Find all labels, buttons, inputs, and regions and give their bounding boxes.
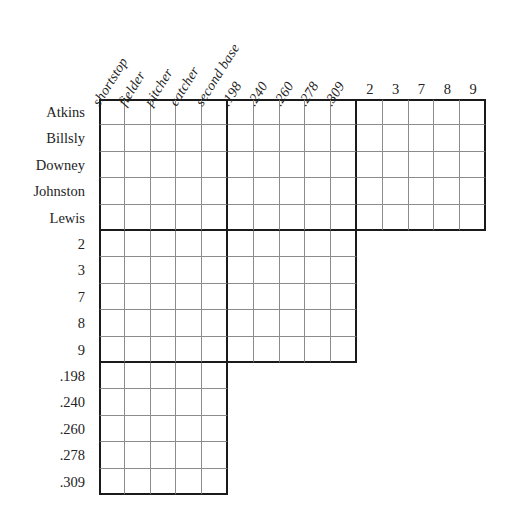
grid-cell[interactable] — [383, 125, 409, 151]
grid-cell[interactable] — [357, 125, 383, 151]
grid-cell[interactable] — [99, 205, 125, 231]
grid-cell[interactable] — [383, 178, 409, 204]
grid-cell[interactable] — [434, 125, 460, 151]
grid-cell[interactable] — [202, 310, 228, 336]
grid-cell[interactable] — [151, 416, 177, 442]
grid-cell[interactable] — [409, 152, 435, 178]
grid-cell[interactable] — [228, 310, 254, 336]
grid-cell[interactable] — [176, 337, 202, 363]
grid-cell[interactable] — [99, 257, 125, 283]
grid-cell[interactable] — [305, 310, 331, 336]
grid-cell[interactable] — [151, 152, 177, 178]
grid-cell[interactable] — [202, 416, 228, 442]
grid-cell[interactable] — [228, 284, 254, 310]
grid-cell[interactable] — [176, 389, 202, 415]
grid-cell[interactable] — [176, 205, 202, 231]
grid-cell[interactable] — [202, 231, 228, 257]
grid-cell[interactable] — [151, 231, 177, 257]
grid-cell[interactable] — [254, 125, 280, 151]
grid-cell[interactable] — [176, 363, 202, 389]
grid-cell[interactable] — [125, 442, 151, 468]
grid-cell[interactable] — [254, 284, 280, 310]
grid-cell[interactable] — [99, 389, 125, 415]
grid-cell[interactable] — [305, 337, 331, 363]
grid-cell[interactable] — [280, 284, 306, 310]
grid-cell[interactable] — [125, 125, 151, 151]
grid-cell[interactable] — [331, 337, 357, 363]
grid-cell[interactable] — [460, 99, 486, 125]
grid-cell[interactable] — [331, 231, 357, 257]
grid-cell[interactable] — [99, 178, 125, 204]
grid-cell[interactable] — [409, 178, 435, 204]
grid-cell[interactable] — [99, 284, 125, 310]
grid-cell[interactable] — [125, 178, 151, 204]
grid-cell[interactable] — [176, 310, 202, 336]
grid-cell[interactable] — [305, 125, 331, 151]
grid-cell[interactable] — [202, 152, 228, 178]
grid-cell[interactable] — [228, 257, 254, 283]
grid-cell[interactable] — [176, 416, 202, 442]
grid-cell[interactable] — [280, 310, 306, 336]
grid-cell[interactable] — [254, 231, 280, 257]
grid-cell[interactable] — [305, 152, 331, 178]
grid-cell[interactable] — [151, 310, 177, 336]
grid-cell[interactable] — [460, 125, 486, 151]
grid-cell[interactable] — [202, 205, 228, 231]
grid-cell[interactable] — [357, 99, 383, 125]
grid-cell[interactable] — [331, 310, 357, 336]
grid-cell[interactable] — [125, 337, 151, 363]
grid-cell[interactable] — [409, 125, 435, 151]
grid-cell[interactable] — [151, 205, 177, 231]
grid-cell[interactable] — [125, 205, 151, 231]
grid-cell[interactable] — [434, 178, 460, 204]
grid-cell[interactable] — [202, 442, 228, 468]
grid-cell[interactable] — [460, 178, 486, 204]
grid-cell[interactable] — [151, 337, 177, 363]
grid-cell[interactable] — [228, 178, 254, 204]
grid-cell[interactable] — [151, 389, 177, 415]
grid-cell[interactable] — [357, 152, 383, 178]
grid-cell[interactable] — [254, 257, 280, 283]
grid-cell[interactable] — [176, 125, 202, 151]
grid-cell[interactable] — [125, 231, 151, 257]
grid-cell[interactable] — [460, 205, 486, 231]
grid-cell[interactable] — [228, 152, 254, 178]
grid-cell[interactable] — [280, 231, 306, 257]
grid-cell[interactable] — [202, 363, 228, 389]
grid-cell[interactable] — [99, 469, 125, 495]
grid-cell[interactable] — [434, 99, 460, 125]
grid-cell[interactable] — [434, 152, 460, 178]
grid-cell[interactable] — [99, 231, 125, 257]
grid-cell[interactable] — [460, 152, 486, 178]
grid-cell[interactable] — [202, 337, 228, 363]
grid-cell[interactable] — [99, 416, 125, 442]
grid-cell[interactable] — [99, 442, 125, 468]
grid-cell[interactable] — [176, 178, 202, 204]
grid-cell[interactable] — [151, 178, 177, 204]
grid-cell[interactable] — [99, 310, 125, 336]
grid-cell[interactable] — [151, 125, 177, 151]
grid-cell[interactable] — [176, 257, 202, 283]
grid-cell[interactable] — [409, 205, 435, 231]
grid-cell[interactable] — [151, 442, 177, 468]
grid-cell[interactable] — [254, 152, 280, 178]
grid-cell[interactable] — [280, 152, 306, 178]
grid-cell[interactable] — [434, 205, 460, 231]
grid-cell[interactable] — [176, 231, 202, 257]
grid-cell[interactable] — [202, 178, 228, 204]
grid-cell[interactable] — [331, 284, 357, 310]
grid-cell[interactable] — [331, 205, 357, 231]
grid-cell[interactable] — [383, 205, 409, 231]
grid-cell[interactable] — [176, 469, 202, 495]
grid-cell[interactable] — [254, 310, 280, 336]
grid-cell[interactable] — [202, 389, 228, 415]
grid-cell[interactable] — [151, 363, 177, 389]
grid-cell[interactable] — [202, 125, 228, 151]
grid-cell[interactable] — [305, 178, 331, 204]
grid-cell[interactable] — [280, 205, 306, 231]
grid-cell[interactable] — [125, 363, 151, 389]
grid-cell[interactable] — [280, 125, 306, 151]
grid-cell[interactable] — [409, 99, 435, 125]
grid-cell[interactable] — [99, 152, 125, 178]
grid-cell[interactable] — [228, 337, 254, 363]
